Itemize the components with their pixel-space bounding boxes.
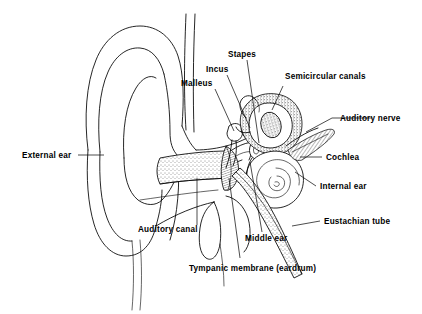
label-cochlea: Cochlea bbox=[326, 153, 359, 162]
label-tympanic-membrane: Tympanic membrane (eardrum) bbox=[189, 264, 316, 273]
label-stapes: Stapes bbox=[228, 50, 256, 59]
label-incus: Incus bbox=[206, 65, 229, 74]
label-auditory-canal: Auditory canal bbox=[138, 225, 198, 234]
label-external-ear: External ear bbox=[22, 151, 72, 160]
ear-anatomy-diagram: Stapes Incus Malleus Semicircular canals… bbox=[0, 0, 422, 314]
label-malleus: Malleus bbox=[181, 79, 213, 88]
semicircular-canals-region bbox=[236, 94, 302, 155]
ear-diagram-canvas: Stapes Incus Malleus Semicircular canals… bbox=[0, 0, 422, 314]
auditory-canal-region bbox=[157, 151, 230, 184]
label-middle-ear: Middle ear bbox=[245, 234, 288, 243]
label-internal-ear: Internal ear bbox=[320, 182, 367, 191]
label-eustachian-tube: Eustachian tube bbox=[324, 217, 390, 226]
label-semicircular-canals: Semicircular canals bbox=[285, 72, 366, 81]
label-auditory-nerve: Auditory nerve bbox=[340, 114, 401, 123]
